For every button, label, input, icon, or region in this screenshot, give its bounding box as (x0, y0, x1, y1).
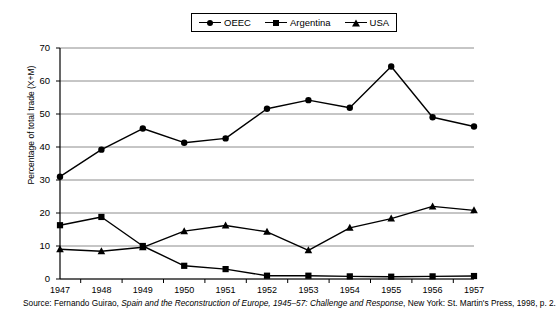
data-point-oeec (222, 135, 228, 141)
data-point-usa (222, 222, 230, 229)
x-tick-label: 1954 (328, 286, 372, 295)
data-point-oeec (98, 146, 104, 152)
series-line-oeec (60, 66, 474, 176)
data-point-oeec (388, 63, 394, 69)
data-point-oeec (181, 140, 187, 146)
x-tick-label: 1953 (286, 286, 330, 295)
data-point-oeec (347, 105, 353, 111)
source-prefix: Source: Fernando Guirao, (23, 298, 121, 308)
data-point-oeec (140, 125, 146, 131)
x-tick-label: 1949 (121, 286, 165, 295)
y-tick-label: 10 (28, 241, 50, 251)
data-point-argentina (388, 274, 394, 280)
x-tick-label: 1947 (38, 286, 82, 295)
series-line-argentina (60, 217, 474, 277)
data-point-oeec (471, 123, 477, 129)
y-tick-label: 30 (28, 175, 50, 185)
data-point-argentina (264, 273, 270, 279)
x-tick-label: 1956 (411, 286, 455, 295)
x-tick-label: 1951 (204, 286, 248, 295)
y-tick-label: 0 (28, 274, 50, 284)
x-tick-label: 1952 (245, 286, 289, 295)
source-note: Source: Fernando Guirao, Spain and the R… (23, 299, 556, 309)
y-tick-label: 70 (28, 43, 50, 53)
data-point-argentina (347, 273, 353, 279)
x-tick-label: 1955 (369, 286, 413, 295)
x-tick-label: 1948 (79, 286, 123, 295)
data-point-argentina (181, 263, 187, 269)
y-tick-label: 20 (28, 208, 50, 218)
data-point-oeec (57, 174, 63, 180)
data-point-usa (429, 202, 437, 209)
data-point-oeec (264, 106, 270, 112)
y-tick-label: 50 (28, 109, 50, 119)
data-point-argentina (305, 273, 311, 279)
data-point-oeec (305, 97, 311, 103)
x-tick-label: 1950 (162, 286, 206, 295)
data-point-argentina (98, 214, 104, 220)
source-suffix: , New York: St. Martin's Press, 1998, p.… (403, 298, 556, 308)
x-tick-label: 1957 (452, 286, 496, 295)
data-point-argentina (57, 222, 63, 228)
y-tick-label: 40 (28, 142, 50, 152)
source-title: Spain and the Reconstruction of Europe, … (121, 298, 403, 308)
data-point-argentina (223, 266, 229, 272)
data-point-argentina (471, 273, 477, 279)
data-point-oeec (429, 114, 435, 120)
data-point-argentina (430, 273, 436, 279)
y-tick-label: 60 (28, 76, 50, 86)
